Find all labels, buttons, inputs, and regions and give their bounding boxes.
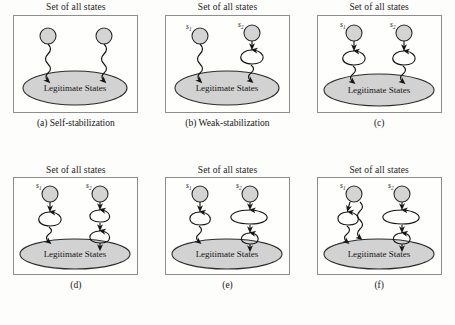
panel-c: Set of all states Legitimate States s1 s… — [303, 0, 455, 163]
s1-node — [346, 25, 362, 41]
legitimate-states-label: Legitimate States — [196, 249, 259, 259]
legitimate-states-label: Legitimate States — [196, 83, 259, 93]
panel-f-title: Set of all states — [349, 166, 408, 176]
s1-wavy-edge — [47, 227, 52, 242]
panel-b-caption: (b) Weak-stabilization — [185, 119, 269, 129]
s1-label: s1 — [36, 181, 42, 191]
s1-loop — [342, 51, 364, 65]
panel-c-box: Legitimate States s1 s2 — [317, 15, 442, 113]
s1-loop — [190, 212, 211, 225]
s2-node — [394, 186, 410, 202]
legitimate-states-label: Legitimate States — [347, 249, 410, 259]
panel-d-title: Set of all states — [46, 166, 105, 176]
s2-label: s2 — [238, 20, 244, 30]
panel-d-box: Legitimate States s1 s2 — [13, 177, 138, 275]
s2-label: s2 — [390, 20, 396, 30]
stabilization-figure: Set of all states Legitimate States (a) … — [0, 0, 455, 325]
panel-d-caption: (d) — [70, 281, 81, 291]
s1-node — [192, 28, 208, 44]
s1-node — [192, 186, 208, 202]
right-node — [96, 28, 112, 44]
panel-b: Set of all states Legitimate States s1 s… — [152, 0, 304, 163]
panel-e-box: Legitimate States s1 s2 — [165, 177, 290, 275]
s1-label: s1 — [186, 22, 192, 32]
panel-c-caption: (c) — [374, 119, 385, 129]
s1-loop — [338, 212, 359, 225]
panel-a-box: Legitimate States — [13, 15, 138, 113]
s1-entry-arrow — [348, 202, 350, 209]
legitimate-states-label: Legitimate States — [347, 85, 410, 95]
s2-label: s2 — [388, 181, 394, 191]
panel-a: Set of all states Legitimate States (a) … — [0, 0, 152, 163]
panel-f: Set of all states Legitimate States s1 s… — [303, 163, 455, 325]
s1-loop — [39, 212, 61, 226]
panel-d: Set of all states Legitimate States s1 s… — [0, 163, 152, 325]
s1-label: s1 — [340, 20, 346, 30]
s2-node — [396, 25, 412, 41]
s2-loop-1 — [90, 210, 110, 222]
panel-f-caption: (f) — [374, 281, 384, 291]
s1-label: s1 — [340, 181, 346, 191]
s1-node — [346, 186, 362, 202]
panel-f-box: Legitimate States s1 s2 — [317, 177, 442, 275]
s1-wavy-edge — [344, 226, 349, 242]
s2-node — [244, 25, 260, 41]
s2-label: s2 — [86, 181, 92, 191]
s1-node — [42, 186, 58, 202]
s2-wide-loop — [383, 210, 419, 224]
s2-loop — [241, 50, 263, 64]
panel-c-title: Set of all states — [349, 3, 408, 13]
panel-e-caption: (e) — [222, 281, 233, 291]
s1-wavy-edge — [196, 226, 201, 242]
left-node — [40, 28, 56, 44]
panel-b-box: Legitimate States s1 s2 — [165, 15, 290, 113]
panel-a-caption: (a) Self-stabilization — [37, 119, 115, 129]
s2-wide-loop — [231, 210, 267, 224]
s2-label: s2 — [236, 181, 242, 191]
s2-node — [242, 186, 258, 202]
s1-label: s1 — [186, 181, 192, 191]
panel-e-title: Set of all states — [198, 166, 257, 176]
legitimate-states-label: Legitimate States — [44, 249, 107, 259]
s2-loop — [392, 51, 414, 65]
panel-a-title: Set of all states — [46, 3, 105, 13]
panel-b-title: Set of all states — [198, 3, 257, 13]
s2-node — [92, 186, 108, 202]
legitimate-states-label: Legitimate States — [44, 83, 107, 93]
panel-e: Set of all states Legitimate States s1 s… — [152, 163, 304, 325]
